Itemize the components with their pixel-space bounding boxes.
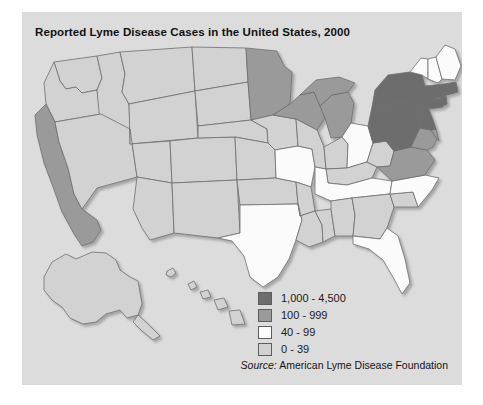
legend-swatch-0 (258, 292, 272, 305)
legend-swatch-3 (258, 343, 272, 356)
legend-item-0: 1,000 - 4,500 (258, 290, 408, 307)
state-HI-5 (229, 310, 245, 325)
state-AL (331, 198, 355, 236)
state-FL (353, 228, 410, 294)
legend-item-1: 100 - 999 (258, 307, 408, 324)
state-AK (44, 252, 142, 324)
state-HI-1 (166, 268, 176, 277)
state-IN (324, 137, 348, 169)
page-title: Reported Lyme Disease Cases in the Unite… (35, 26, 350, 38)
legend-swatch-2 (258, 326, 272, 339)
state-AZ (133, 177, 174, 240)
legend-label-2: 40 - 99 (281, 326, 315, 339)
map-legend: 1,000 - 4,500 100 - 999 40 - 99 0 - 39 (258, 290, 408, 358)
state-AK-tail (133, 315, 160, 340)
source-prefix: Source: (241, 359, 277, 371)
state-HI-2 (188, 281, 197, 290)
state-HI-4 (214, 298, 228, 310)
legend-label-0: 1,000 - 4,500 (281, 292, 346, 305)
state-OK (237, 178, 298, 205)
legend-swatch-1 (258, 309, 272, 322)
state-CO (170, 137, 237, 183)
source-text: American Lyme Disease Foundation (279, 359, 448, 371)
legend-item-3: 0 - 39 (258, 341, 408, 358)
source-credit: Source: American Lyme Disease Foundation (241, 359, 448, 371)
legend-label-1: 100 - 999 (281, 309, 327, 322)
state-HI-3 (200, 290, 211, 299)
state-NM (172, 180, 240, 238)
map-figure-panel: Reported Lyme Disease Cases in the Unite… (22, 12, 462, 385)
legend-label-3: 0 - 39 (281, 343, 309, 356)
legend-item-2: 40 - 99 (258, 324, 408, 341)
